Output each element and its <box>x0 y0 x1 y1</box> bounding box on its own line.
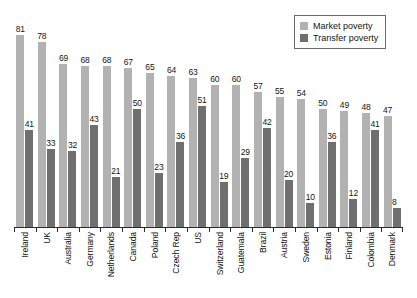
bar-market <box>232 85 240 227</box>
bar-value-label-transfer: 41 <box>370 120 379 129</box>
legend-label-market: Market poverty <box>313 21 373 32</box>
bar-market <box>38 42 46 227</box>
bar-value-label-transfer: 10 <box>306 193 315 202</box>
x-label-finland: Finland <box>345 232 354 260</box>
x-label-denmark: Denmark <box>388 232 397 266</box>
x-label-netherlands: Netherlands <box>107 232 116 277</box>
bar-value-label-transfer: 8 <box>392 198 397 207</box>
bar-transfer <box>306 203 314 227</box>
legend-item-market: Market poverty <box>300 20 378 32</box>
bar-value-label-transfer: 51 <box>198 96 207 105</box>
bar-market <box>276 97 284 227</box>
bar-value-label-transfer: 23 <box>154 163 163 172</box>
bar-value-label-transfer: 33 <box>46 139 55 148</box>
bar-market <box>362 113 370 227</box>
bar-value-label-market: 63 <box>189 68 198 77</box>
bar-transfer <box>176 142 184 227</box>
bar-value-label-market: 48 <box>361 103 370 112</box>
bar-market <box>16 35 24 227</box>
bar-transfer <box>47 149 55 227</box>
bar-market <box>189 78 197 227</box>
x-axis-labels: IrelandUKAustraliaGermanyNetherlandsCana… <box>14 232 403 298</box>
bar-value-label-transfer: 12 <box>349 189 358 198</box>
bar-value-label-transfer: 43 <box>90 115 99 124</box>
bar-value-label-transfer: 42 <box>262 118 271 127</box>
bar-market <box>167 76 175 227</box>
x-label-australia: Australia <box>64 232 73 265</box>
bar-market <box>146 73 154 227</box>
bar-value-label-market: 60 <box>210 75 219 84</box>
bar-value-label-market: 57 <box>253 82 262 91</box>
x-label-austria: Austria <box>280 232 289 258</box>
bar-value-label-market: 55 <box>275 87 284 96</box>
bar-transfer <box>198 106 206 227</box>
bar-transfer <box>68 151 76 227</box>
x-label-switzerland: Switzerland <box>216 232 225 275</box>
x-label-sweden: Sweden <box>302 232 311 262</box>
bar-value-label-market: 49 <box>340 101 349 110</box>
x-label-poland: Poland <box>151 232 160 258</box>
bar-market <box>124 68 132 227</box>
poverty-bar-chart: 8141783369326843682167506523643663516019… <box>0 0 417 298</box>
legend-swatch-market-icon <box>300 22 308 30</box>
bar-market <box>254 92 262 227</box>
bar-transfer <box>393 208 401 227</box>
legend-swatch-transfer-icon <box>300 34 308 42</box>
bar-value-label-market: 67 <box>124 58 133 67</box>
chart-legend: Market poverty Transfer poverty <box>294 15 386 49</box>
x-label-czech-rep: Czech Rep <box>172 232 181 274</box>
bar-value-label-market: 78 <box>37 32 46 41</box>
bar-transfer <box>90 125 98 227</box>
legend-label-transfer: Transfer poverty <box>313 33 378 44</box>
bar-transfer <box>241 158 249 227</box>
bar-value-label-market: 81 <box>16 25 25 34</box>
x-label-germany: Germany <box>86 232 95 267</box>
bar-transfer <box>328 142 336 227</box>
bar-value-label-market: 54 <box>297 89 306 98</box>
bar-market <box>297 99 305 227</box>
bar-value-label-transfer: 41 <box>25 120 34 129</box>
x-label-colombia: Colombia <box>367 232 376 268</box>
bar-transfer <box>371 130 379 227</box>
x-label-uk: UK <box>43 232 52 244</box>
bar-value-label-market: 68 <box>81 56 90 65</box>
bar-value-label-market: 50 <box>318 99 327 108</box>
x-label-us: US <box>194 232 203 244</box>
bar-transfer <box>112 177 120 227</box>
bar-value-label-transfer: 19 <box>219 172 228 181</box>
bar-market <box>211 85 219 227</box>
x-label-canada: Canada <box>129 232 138 262</box>
legend-item-transfer: Transfer poverty <box>300 32 378 44</box>
bar-market <box>59 64 67 227</box>
bar-transfer <box>349 199 357 227</box>
x-label-brazil: Brazil <box>259 232 268 253</box>
bar-market <box>384 116 392 227</box>
bar-transfer <box>263 128 271 227</box>
bar-value-label-transfer: 21 <box>111 167 120 176</box>
bar-market <box>103 66 111 227</box>
bar-value-label-market: 47 <box>383 106 392 115</box>
bar-value-label-market: 69 <box>59 54 68 63</box>
bar-transfer <box>133 109 141 227</box>
x-label-ireland: Ireland <box>21 232 30 258</box>
bar-value-label-transfer: 20 <box>284 170 293 179</box>
bar-value-label-market: 60 <box>232 75 241 84</box>
x-label-guatemala: Guatemala <box>237 232 246 273</box>
bar-value-label-transfer: 36 <box>327 132 336 141</box>
bar-market <box>340 111 348 227</box>
bar-transfer <box>25 130 33 227</box>
bar-value-label-transfer: 32 <box>68 141 77 150</box>
bar-market <box>319 109 327 227</box>
bar-value-label-market: 68 <box>102 56 111 65</box>
bar-value-label-market: 65 <box>145 63 154 72</box>
x-label-estonia: Estonia <box>324 232 333 260</box>
bar-transfer <box>220 182 228 227</box>
bar-value-label-transfer: 36 <box>176 132 185 141</box>
bar-transfer <box>285 180 293 227</box>
bar-transfer <box>155 173 163 227</box>
bar-value-label-transfer: 50 <box>133 99 142 108</box>
bar-value-label-transfer: 29 <box>241 148 250 157</box>
bar-market <box>81 66 89 227</box>
bar-value-label-market: 64 <box>167 66 176 75</box>
